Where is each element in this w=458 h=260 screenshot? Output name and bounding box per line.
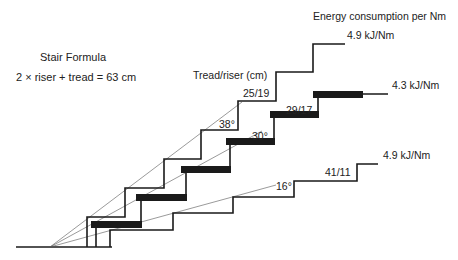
- comfortable-stair-treads: [91, 91, 363, 228]
- comfortable-angle: 30°: [252, 130, 268, 142]
- comfortable-energy: 4.3 kJ/Nm: [392, 79, 440, 91]
- formula-heading: Stair Formula: [40, 51, 107, 63]
- steep-energy: 4.9 kJ/Nm: [347, 29, 395, 41]
- shallow-angle: 16°: [276, 180, 292, 192]
- comfortable-dimensions: 29/17: [286, 104, 312, 116]
- ray-38: [50, 102, 242, 247]
- formula-text: 2 × riser + tread = 63 cm: [16, 71, 136, 83]
- stair-formula-diagram: Stair Formula 2 × riser + tread = 63 cm …: [0, 0, 458, 260]
- steep-angle: 38°: [219, 118, 235, 130]
- steep-dimensions: 25/19: [243, 87, 269, 99]
- energy-heading: Energy consumption per Nm: [313, 10, 446, 22]
- shallow-dimensions: 41/11: [325, 166, 351, 178]
- angle-rays: [50, 102, 276, 247]
- shallow-energy: 4.9 kJ/Nm: [383, 149, 431, 161]
- tread-riser-heading: Tread/riser (cm): [193, 69, 267, 81]
